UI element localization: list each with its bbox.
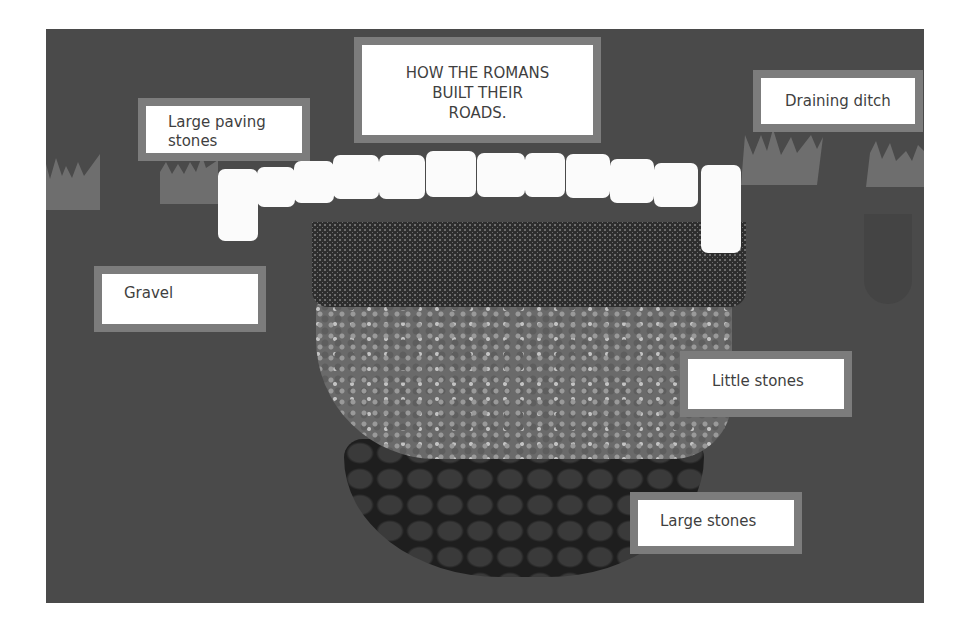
paving-stone xyxy=(426,151,476,197)
draining-ditch xyxy=(864,214,912,304)
poster-board: HOW THE ROMANS BUILT THEIR ROADS. Large … xyxy=(46,29,924,603)
paving-stone xyxy=(701,165,741,253)
title-line-3: ROADS. xyxy=(362,103,593,123)
paving-label-line-2: stones xyxy=(168,132,266,151)
paving-stone xyxy=(294,161,334,203)
paving-stone xyxy=(333,155,379,199)
paving-stone xyxy=(379,155,425,199)
grass-tuft-paving-icon xyxy=(160,156,218,204)
draining-ditch-label: Draining ditch xyxy=(753,70,923,132)
gravel-label: Gravel xyxy=(94,266,266,332)
little-stones-layer xyxy=(316,299,732,459)
paving-stone xyxy=(566,154,610,198)
title-label: HOW THE ROMANS BUILT THEIR ROADS. xyxy=(354,37,601,143)
grass-tuft-ditch-right-icon xyxy=(866,141,924,187)
paving-stone xyxy=(218,169,258,241)
paving-stone xyxy=(610,159,654,203)
ditch-label-text: Draining ditch xyxy=(785,92,891,111)
title-line-1: HOW THE ROMANS xyxy=(362,63,593,83)
paving-stone xyxy=(257,167,295,207)
little-stones-label: Little stones xyxy=(680,351,852,417)
paving-label-line-1: Large paving xyxy=(168,113,266,132)
gravel-label-text: Gravel xyxy=(124,284,173,303)
large-label-text: Large stones xyxy=(660,512,756,531)
paving-stone xyxy=(525,153,565,197)
grass-tuft-ditch-left-icon xyxy=(741,129,823,185)
large-stones-label: Large stones xyxy=(630,492,802,554)
little-label-text: Little stones xyxy=(712,372,804,391)
gravel-layer xyxy=(312,222,746,307)
paving-stone xyxy=(654,163,698,207)
title-line-2: BUILT THEIR xyxy=(362,83,593,103)
paving-stones-label: Large paving stones xyxy=(138,98,310,161)
paving-stone xyxy=(477,153,525,197)
grass-tuft-left-icon xyxy=(46,154,100,210)
